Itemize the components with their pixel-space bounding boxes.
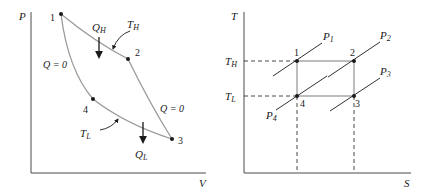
cold-isotherm-label: TL bbox=[80, 127, 91, 141]
s-axis-label: S bbox=[404, 177, 410, 189]
cold-isotherm-pointer-icon bbox=[100, 119, 118, 130]
ts-point-2-label: 2 bbox=[350, 47, 355, 58]
pv-point-3-label: 3 bbox=[178, 135, 183, 146]
ts-point-1 bbox=[295, 59, 299, 63]
ts-point-2 bbox=[352, 59, 356, 63]
isobar-p3-label: P3 bbox=[379, 65, 391, 79]
isobar-p4-label: P4 bbox=[265, 109, 277, 123]
ts-diagram: T S TH TL P1 P2 P3 P4 bbox=[225, 10, 411, 189]
isobar-p2-label: P2 bbox=[379, 29, 391, 43]
pv-point-3 bbox=[170, 137, 174, 141]
pv-point-1-label: 1 bbox=[50, 12, 55, 23]
hot-isotherm-pointer-icon bbox=[113, 31, 130, 49]
ts-point-4 bbox=[295, 94, 299, 98]
adiabat-right-label: Q = 0 bbox=[160, 103, 184, 114]
heat-out-label: QL bbox=[135, 148, 148, 162]
carnot-cycle-figure: P V 1 2 3 4 QH TH Q = 0 Q = 0 TL bbox=[0, 0, 429, 196]
heat-in-label: QH bbox=[92, 21, 107, 35]
t-axis-label: T bbox=[231, 10, 238, 22]
isobar-p1-label: P1 bbox=[322, 30, 334, 44]
t-high-label: TH bbox=[225, 55, 238, 69]
v-axis-label: V bbox=[199, 177, 207, 189]
ts-point-3-label: 3 bbox=[355, 98, 360, 109]
pv-diagram: P V 1 2 3 4 QH TH Q = 0 Q = 0 TL bbox=[18, 10, 207, 189]
adiabat-expansion-curve bbox=[128, 59, 172, 139]
pv-point-2 bbox=[126, 57, 130, 61]
pv-point-2-label: 2 bbox=[135, 47, 140, 58]
t-low-label: TL bbox=[225, 90, 236, 104]
pv-point-4-label: 4 bbox=[83, 104, 88, 115]
pv-point-1 bbox=[59, 12, 63, 16]
p-axis-label: P bbox=[18, 10, 26, 22]
ts-point-1-label: 1 bbox=[294, 47, 299, 58]
adiabat-left-label: Q = 0 bbox=[43, 59, 67, 70]
ts-point-4-label: 4 bbox=[300, 98, 305, 109]
pv-point-4 bbox=[91, 97, 95, 101]
hot-isotherm-label: TH bbox=[127, 18, 140, 32]
